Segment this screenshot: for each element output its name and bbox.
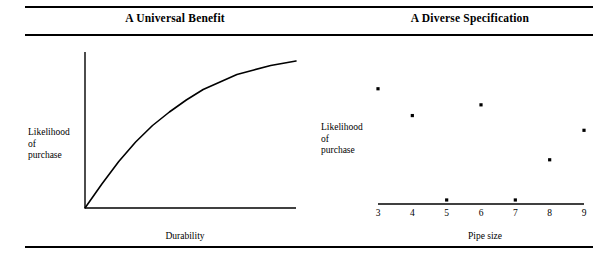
- scatter-point: [445, 198, 448, 201]
- right-x-axis-label: Pipe size: [440, 231, 530, 241]
- right-scatter-chart: [0, 0, 616, 258]
- scatter-point: [376, 87, 379, 90]
- figure-container: A Universal Benefit A Diverse Specificat…: [0, 0, 616, 258]
- scatter-point: [514, 198, 517, 201]
- scatter-point-group: [376, 87, 585, 201]
- scatter-point: [548, 158, 551, 161]
- x-tick-label-3: 3: [370, 208, 386, 218]
- x-tick-label-5: 5: [439, 208, 455, 218]
- right-ylabel-line-3: purchase: [321, 145, 363, 157]
- right-ylabel-line-1: Likelihood: [321, 122, 363, 134]
- scatter-point: [411, 114, 414, 117]
- right-ylabel-line-2: of: [321, 134, 363, 146]
- x-tick-label-4: 4: [404, 208, 420, 218]
- x-tick-label-6: 6: [473, 208, 489, 218]
- scatter-point: [582, 129, 585, 132]
- right-y-axis-label: Likelihood of purchase: [321, 122, 363, 157]
- x-tick-label-7: 7: [507, 208, 523, 218]
- x-tick-label-8: 8: [542, 208, 558, 218]
- x-tick-label-9: 9: [576, 208, 592, 218]
- scatter-point: [479, 103, 482, 106]
